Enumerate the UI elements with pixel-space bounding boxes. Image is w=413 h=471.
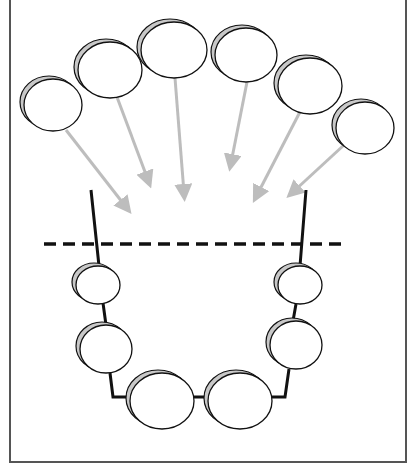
lower-ellipse-2 bbox=[76, 322, 132, 373]
lower-ellipse-group bbox=[72, 263, 322, 429]
diagram-canvas bbox=[0, 0, 413, 471]
arrow-2 bbox=[117, 97, 148, 180]
lower-ellipse-3 bbox=[126, 370, 194, 429]
upper-ellipse-1 bbox=[20, 76, 82, 131]
upper-ellipse-2 bbox=[74, 39, 142, 98]
upper-ellipse-4 bbox=[211, 25, 277, 82]
upper-ellipse-group bbox=[20, 19, 394, 154]
arrow-6 bbox=[293, 145, 344, 192]
arrow-3 bbox=[175, 78, 184, 193]
lower-ellipse-4 bbox=[204, 370, 272, 429]
lower-ellipse-1 bbox=[72, 263, 120, 304]
arrow-1 bbox=[66, 130, 126, 207]
upper-ellipse-3 bbox=[137, 19, 207, 78]
lower-ellipse-6 bbox=[274, 263, 322, 304]
arrow-5 bbox=[257, 108, 302, 195]
arrow-4 bbox=[231, 82, 247, 163]
lower-ellipse-5 bbox=[266, 318, 322, 369]
upper-ellipse-5 bbox=[274, 55, 342, 114]
